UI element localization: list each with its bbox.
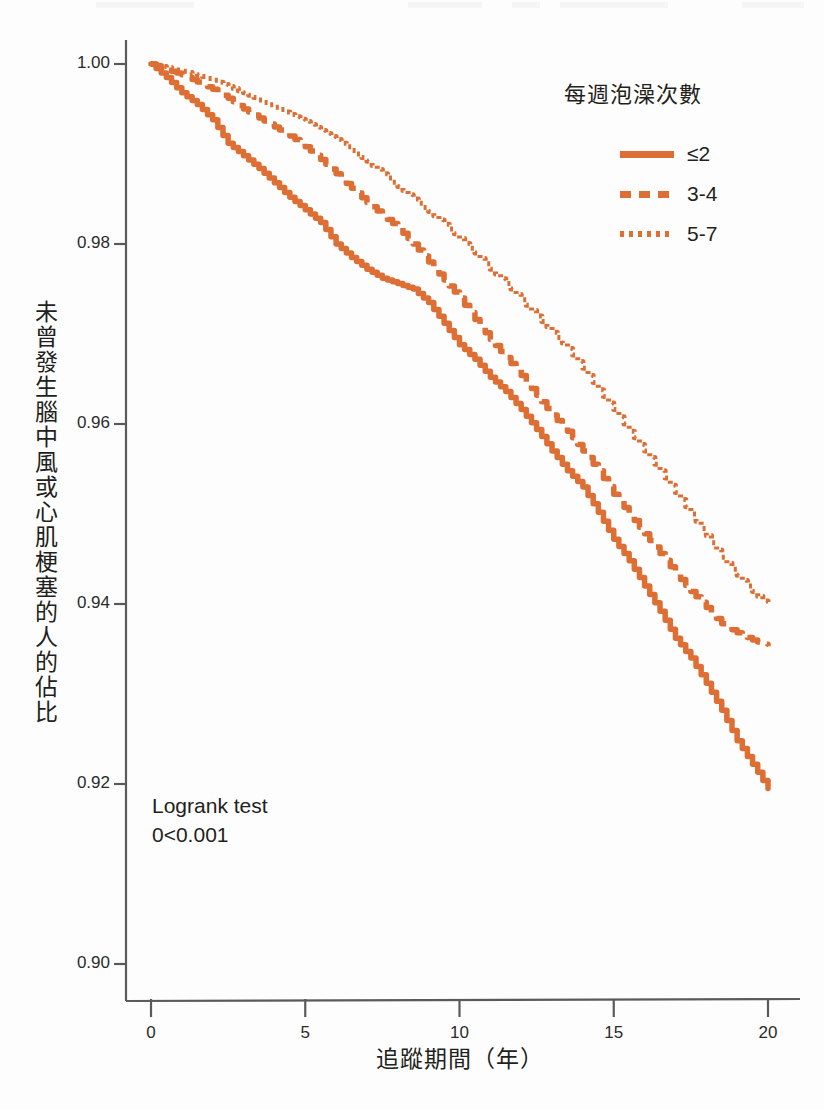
legend-swatch-dotted-icon <box>620 231 674 237</box>
legend-label-3-4: 3-4 <box>687 182 717 206</box>
y-axis-title: 未曾發生腦中風或心肌梗塞的人的佔比 <box>26 300 66 725</box>
logrank-annotation: Logrank test 0<0.001 <box>152 791 268 849</box>
legend-item-le2[interactable]: ≤2 <box>556 134 806 174</box>
y-tick-label: 0.98 <box>48 233 110 253</box>
legend-item-3-4[interactable]: 3-4 <box>556 174 806 214</box>
logrank-label: Logrank test <box>152 791 268 820</box>
y-tick-label: 0.92 <box>48 773 110 793</box>
y-tick-label: 1.00 <box>48 53 110 73</box>
legend-swatch-dashed-icon <box>620 191 674 198</box>
legend-swatch-solid-icon <box>620 151 674 158</box>
x-axis-title: 追蹤期間（年） <box>151 1040 769 1074</box>
legend-label-le2: ≤2 <box>687 142 710 166</box>
legend-label-5-7: 5-7 <box>687 222 717 246</box>
y-tick-label: 0.90 <box>48 953 110 973</box>
legend: 每週泡澡次數 ≤2 3-4 5-7 <box>556 76 806 254</box>
chart-page: 0.900.920.940.960.981.00 05101520 未曾發生腦中… <box>0 0 824 1110</box>
legend-item-5-7[interactable]: 5-7 <box>556 214 806 254</box>
logrank-p-value: 0<0.001 <box>152 820 268 849</box>
legend-title: 每週泡澡次數 <box>556 76 806 108</box>
